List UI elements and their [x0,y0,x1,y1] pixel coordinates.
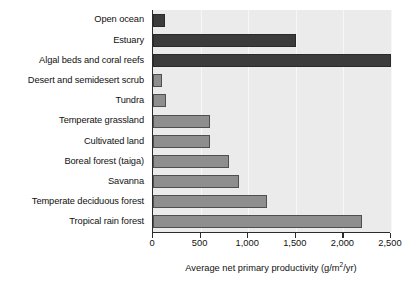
bar [153,94,166,107]
bar-row [153,192,391,212]
bar [153,115,210,128]
bar-row [153,10,391,30]
category-label: Algal beds and coral reefs [0,50,149,70]
category-label: Open ocean [0,10,149,30]
axis-tick-label: 1,500 [283,239,306,248]
bar [153,215,362,228]
bar [153,34,296,47]
category-axis: Open ocean Estuary Algal beds and coral … [0,10,149,232]
axis-tick-label: 0 [149,239,154,248]
category-label: Temperate deciduous forest [0,192,149,212]
bar-row [153,50,391,70]
bar-row [153,131,391,151]
bar [153,54,391,67]
axis-tick-label: 2,500 [378,239,401,248]
bar-row [153,30,391,50]
category-label: Savanna [0,172,149,192]
category-label: Desert and semidesert scrub [0,71,149,91]
plot-area [152,10,391,232]
axis-title-suffix: /yr) [343,263,356,273]
axis-title-prefix: Average net primary productivity (g/m [185,263,339,273]
bar-row [153,71,391,91]
category-label: Temperate grassland [0,111,149,131]
axis-tick-label: 500 [192,239,208,248]
axis-tick-label: 2,000 [331,239,354,248]
bar [153,14,165,27]
bar [153,195,267,208]
category-label: Boreal forest (taiga) [0,151,149,171]
category-label: Cultivated land [0,131,149,151]
bar-row [153,111,391,131]
bar [153,175,239,188]
value-axis: 05001,0001,5002,0002,500 [152,232,390,239]
bar [153,135,210,148]
gridline [391,10,392,232]
axis-tick-label: 1,000 [236,239,259,248]
axis-title: Average net primary productivity (g/m2/y… [152,261,390,273]
bar-row [153,212,391,232]
category-label: Tropical rain forest [0,212,149,232]
bar-row [153,151,391,171]
category-label: Estuary [0,30,149,50]
bar-row [153,172,391,192]
category-label: Tundra [0,91,149,111]
bar-row [153,91,391,111]
bar [153,155,229,168]
bar [153,74,162,87]
bars-layer [153,10,391,232]
